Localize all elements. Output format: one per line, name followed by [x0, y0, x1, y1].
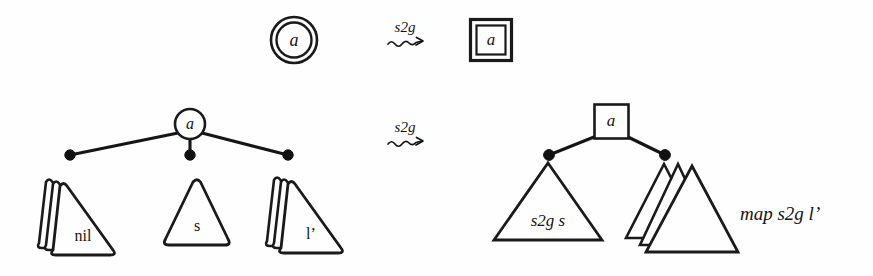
s2gs-triangle: s2g s [494, 163, 602, 240]
left-tree-dots [65, 150, 293, 160]
s2gs-triangle-label: s2g s [531, 211, 566, 230]
dot-rt-s2gs [544, 150, 555, 161]
left-tree: a nil s [38, 109, 342, 255]
left-tree-edges [70, 133, 288, 155]
left-root-label: a [186, 115, 194, 132]
s-triangle-outline [164, 180, 229, 245]
double-square-node: a [471, 20, 512, 61]
edge-rt-root-to-stack [628, 137, 665, 155]
lprime-triangle-layer-1 [280, 182, 343, 254]
arrow-bottom-label: s2g [395, 119, 416, 135]
edge-root-to-lprime [202, 133, 288, 155]
nil-triangle-layer-1 [52, 184, 115, 256]
nil-triangle-label: nil [75, 227, 92, 244]
map-triangle-stack [626, 164, 738, 252]
figure-svg: a s2g a [0, 0, 873, 276]
arrow-bottom: s2g [388, 119, 423, 146]
right-root-label: a [607, 111, 616, 130]
edge-root-to-nil [70, 133, 178, 155]
squiggly-arrow-icon [388, 38, 423, 47]
left-tree-root: a [175, 109, 205, 139]
lprime-triangle-stack: l’ [266, 178, 342, 254]
arrow-top: s2g [388, 19, 423, 46]
double-circle-label: a [290, 30, 299, 50]
nil-triangle-stack: nil [38, 180, 114, 256]
double-square-label: a [487, 30, 496, 49]
right-tree: a s2g s map s2g l’ [494, 105, 820, 253]
row-atom: a s2g a [271, 17, 512, 63]
dot-s [185, 150, 195, 160]
double-circle-node: a [271, 17, 317, 63]
lprime-triangle-label: l’ [306, 225, 316, 242]
map-s2g-side-label: map s2g l’ [740, 203, 820, 224]
arrow-top-label: s2g [395, 19, 416, 35]
dot-nil [65, 150, 75, 160]
s-triangle-label: s [194, 217, 200, 234]
dot-rt-stack [660, 150, 671, 161]
right-tree-root: a [595, 105, 629, 139]
squiggly-arrow-icon-bottom [388, 138, 423, 147]
s-triangle: s [164, 180, 229, 245]
dot-lprime [283, 150, 293, 160]
figure-canvas: a s2g a [0, 0, 873, 276]
edge-rt-root-to-s2gs [549, 137, 594, 155]
